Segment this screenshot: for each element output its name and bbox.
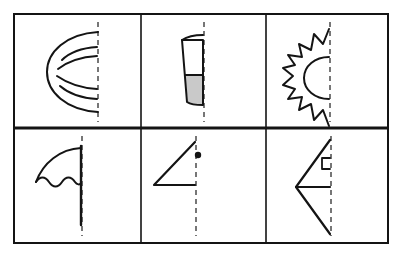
- vertex-dot-marker: [195, 152, 201, 158]
- grid: [14, 14, 388, 243]
- symmetry-worksheet: [0, 0, 410, 256]
- worksheet-canvas: [0, 0, 410, 256]
